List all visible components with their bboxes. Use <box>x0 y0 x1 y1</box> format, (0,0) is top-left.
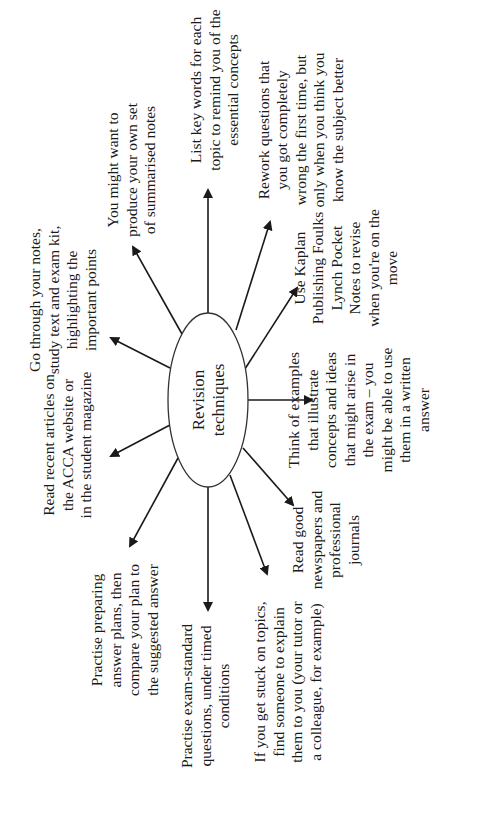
node-summarised-notes-line: of summarised notes <box>141 106 158 234</box>
arrow-highlight-notes <box>111 338 170 368</box>
node-newspapers: Read goodnewspapers andprofessionaljourn… <box>289 490 362 589</box>
node-rework-questions-line: only when you think you <box>310 52 327 207</box>
arrow-summarised-notes <box>133 247 182 334</box>
node-answer-plans-line: answer plans, then <box>107 572 124 687</box>
node-pocket-notes-line: Publishing Foulks <box>309 212 326 324</box>
node-pocket-notes-line: Use Kaplan <box>291 231 308 304</box>
node-rework-questions: Rework questions thatyou got completelyw… <box>255 52 346 207</box>
node-summarised-notes-line: You might want to <box>104 112 121 227</box>
node-acca-articles: Read recent articles onthe ACCA website … <box>40 371 94 518</box>
node-think-examples-line: Think of examples <box>285 352 302 468</box>
node-highlight-notes-line: Go through your notes, <box>26 228 43 372</box>
center-title: Revisiontechniques <box>189 364 228 437</box>
node-explain-topics-line: a colleague, for example) <box>307 603 325 761</box>
node-newspapers-line: journals <box>345 515 362 566</box>
arrow-rework-questions <box>236 222 270 330</box>
node-explain-topics-line: find someone to explain <box>270 607 287 757</box>
arrow-acca-articles <box>111 425 170 456</box>
node-newspapers-line: Read good <box>289 506 306 573</box>
node-key-words: List key words for eachtopic to remind y… <box>187 9 241 171</box>
node-exam-standard-line: Practise exam-standard <box>178 624 195 768</box>
node-acca-articles-line: the ACCA website or <box>59 378 76 511</box>
diagram-canvas: Revisiontechniques You might want toprod… <box>0 0 485 833</box>
node-think-examples-line: concepts and ideas <box>322 352 339 468</box>
node-think-examples-line: might be able to use <box>378 347 395 472</box>
revision-techniques-diagram: Revisiontechniques You might want toprod… <box>0 0 485 833</box>
node-exam-standard-line: questions, under timed <box>197 625 214 766</box>
node-pocket-notes-line: Notes to revise <box>346 221 363 314</box>
node-explain-topics: If you get stuck on topics,find someone … <box>251 600 324 762</box>
node-highlight-notes-line: important points <box>82 249 99 351</box>
arrow-explain-topics <box>230 475 267 574</box>
center-title-line: Revision <box>189 369 208 430</box>
node-think-examples-line: the exam – you <box>359 362 376 457</box>
node-think-examples-line: them in a written <box>396 357 413 463</box>
center-node: Revisiontechniques <box>168 313 248 487</box>
node-think-examples-line: that might arise in <box>341 354 358 467</box>
node-think-examples: Think of examplesthat illustrateconcepts… <box>285 347 432 472</box>
node-newspapers-line: newspapers and <box>308 490 325 589</box>
node-answer-plans-line: Practise preparing <box>88 574 105 687</box>
node-key-words-line: List key words for each <box>187 17 204 164</box>
node-exam-standard: Practise exam-standardquestions, under t… <box>178 624 232 768</box>
node-pocket-notes-line: move <box>383 251 400 286</box>
node-answer-plans: Practise preparinganswer plans, thencomp… <box>88 563 161 696</box>
node-rework-questions-line: Rework questions that <box>255 60 272 199</box>
center-title-line: techniques <box>209 364 228 437</box>
node-explain-topics-line: If you get stuck on topics, <box>251 601 268 762</box>
node-key-words-line: topic to remind you of the <box>206 9 223 171</box>
node-summarised-notes-line: produce your own set <box>123 102 140 237</box>
node-rework-questions-line: know the subject better <box>329 57 346 202</box>
node-rework-questions-line: wrong the first time, but <box>292 54 309 205</box>
node-summarised-notes: You might want toproduce your own setof … <box>104 102 158 237</box>
node-think-examples-line: that illustrate <box>304 369 321 450</box>
node-highlight-notes: Go through your notes,study text and exa… <box>26 226 99 375</box>
node-answer-plans-line: the suggested answer <box>144 563 161 696</box>
node-answer-plans-line: compare your plan to <box>125 564 142 696</box>
center-label: Revisiontechniques <box>189 364 228 437</box>
node-pocket-notes: Use KaplanPublishing FoulksLynch PocketN… <box>291 209 401 327</box>
node-key-words-line: essential concepts <box>224 34 241 145</box>
node-highlight-notes-line: study text and exam kit, <box>45 226 62 375</box>
node-think-examples-line: answer <box>415 387 432 432</box>
node-acca-articles-line: Read recent articles on <box>40 374 57 516</box>
node-explain-topics-line: them to you (your tutor or <box>288 600 306 762</box>
node-highlight-notes-line: highlighting the <box>63 251 80 350</box>
node-acca-articles-line: in the student magazine <box>77 371 94 518</box>
node-newspapers-line: professional <box>326 502 343 578</box>
node-rework-questions-line: you got completely <box>273 70 290 190</box>
arrow-answer-plans <box>130 458 178 546</box>
node-exam-standard-line: conditions <box>215 664 232 729</box>
node-pocket-notes-line: when you're on the <box>365 209 382 327</box>
node-pocket-notes-line: Lynch Pocket <box>328 225 345 310</box>
